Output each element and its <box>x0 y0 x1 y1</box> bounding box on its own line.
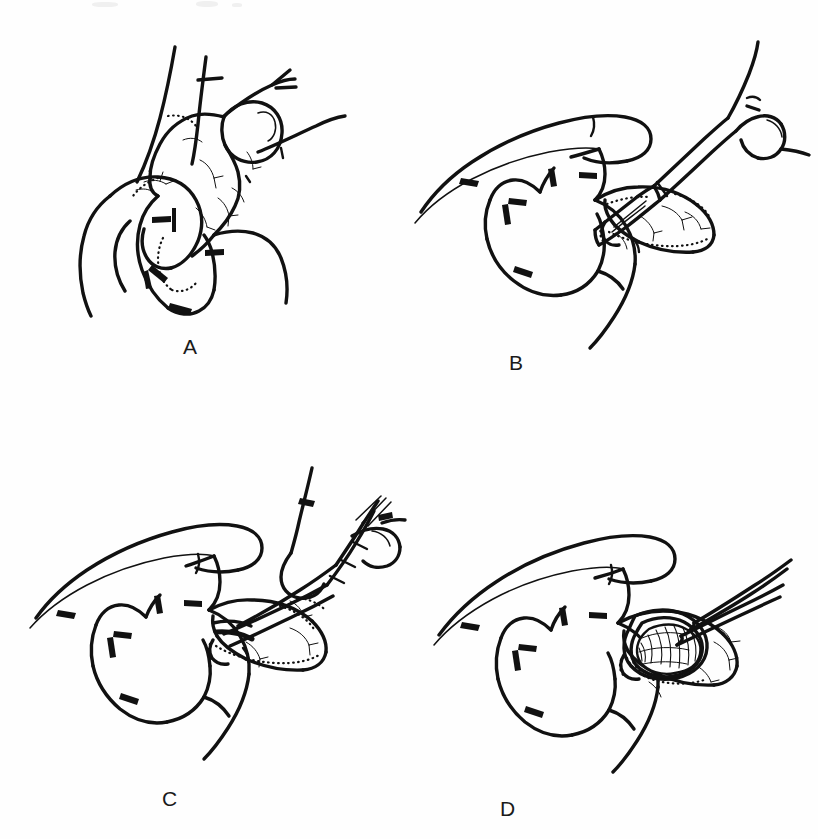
coronary-d5 <box>711 680 719 682</box>
coronary-c3 <box>309 645 310 655</box>
heart-right-border-c <box>204 666 210 697</box>
supporting-finger-left-edge <box>80 196 110 316</box>
heart-left-border-d <box>496 638 501 679</box>
thumb-inner-edge-b <box>598 271 623 289</box>
heart-left-border-b <box>485 200 490 239</box>
heart-right-upper-d <box>608 653 615 679</box>
heart-lower-right-d <box>572 710 609 735</box>
finger-nail-tick-d <box>460 622 480 631</box>
heart-lower-right-c <box>167 697 204 722</box>
figure-sheet: A <box>0 0 818 839</box>
heart-upper-left-b <box>490 180 540 200</box>
heart-lower-right-b <box>561 271 598 295</box>
coronary-branch-a13 <box>207 227 215 230</box>
panel-d-illustration <box>409 420 818 839</box>
appendage-right-b <box>697 205 714 235</box>
panel-a: A <box>0 0 409 419</box>
coronary-b4 <box>640 216 654 233</box>
coronary-c1 <box>290 628 309 645</box>
thumb-outer-edge-c <box>204 674 249 759</box>
ventricle-left-border <box>138 196 168 308</box>
vessel-stub-a2 <box>172 208 176 232</box>
panel-a-illustration <box>0 0 409 419</box>
panel-label-b: B <box>509 352 524 373</box>
coronary-branch-a15 <box>253 167 261 169</box>
vessel-stub-d1 <box>518 644 537 652</box>
finger-lower-shade <box>571 149 599 157</box>
coronary-c2 <box>309 643 318 645</box>
hand2-nail-tick-c <box>298 498 315 507</box>
thumb-inner-edge-c <box>204 697 229 716</box>
right-lower-limb <box>214 231 287 303</box>
scalpel-handle-lower <box>660 131 736 200</box>
coronary-branch-a8 <box>214 178 216 188</box>
finger-nail-tick-c <box>56 610 76 619</box>
hand2-finger-right <box>781 149 809 155</box>
hand2-thumb-lower-c <box>363 547 400 567</box>
heart-apex-c <box>93 666 167 723</box>
heart-upper-left-border <box>150 114 224 177</box>
appendage-lower-right-d <box>714 666 737 685</box>
thumb-inner-edge-d <box>609 710 634 729</box>
heart-left-border-c <box>91 625 96 666</box>
heart-upper-left-c <box>96 605 146 625</box>
coronary-b3 <box>682 220 684 230</box>
panel-d: D <box>409 420 818 839</box>
hand2-finger-pad-c <box>281 553 324 598</box>
panel-c-illustration <box>0 420 409 839</box>
vessel-stub-d5 <box>524 706 544 718</box>
vessel-stub-c5 <box>119 693 139 705</box>
aorta-right-border <box>192 57 206 164</box>
panel-b-illustration <box>409 0 818 419</box>
hand2-thumb-pad <box>758 124 785 159</box>
vessel-stub-b4 <box>579 172 597 179</box>
coronary-branch-a7 <box>214 176 223 178</box>
vessel-stub-b2 <box>502 204 511 225</box>
scissors-upper-blade-top <box>238 565 336 626</box>
vessel-stub-c4 <box>184 600 202 607</box>
appendage-right-c <box>312 621 326 652</box>
coronary-b7 <box>685 212 701 229</box>
scalpel-blade-heel <box>595 230 599 245</box>
vessel-stub-d4 <box>589 612 607 619</box>
heart-right-border-d <box>609 679 615 710</box>
appendage-lobe-inner-crease <box>258 112 276 141</box>
tick-a2 <box>246 176 250 182</box>
index-finger-tip <box>584 158 627 163</box>
pulmonary-branch-stub-2 <box>276 87 296 88</box>
panel-label-d: D <box>500 798 516 819</box>
hand2-knuckle-tick <box>747 106 759 110</box>
heart-upper-right-d <box>618 569 629 623</box>
panel-label-a: A <box>183 336 198 357</box>
appendage-flap-lower <box>142 229 171 269</box>
vessel-stub-c1 <box>113 631 132 639</box>
coronary-b1 <box>662 206 682 220</box>
hand2-thumb-lower <box>741 140 758 158</box>
heart-upper-right-c <box>209 556 220 610</box>
panel-label-c: C <box>162 788 178 809</box>
vessel-stub-b3 <box>548 168 557 187</box>
heart-upper-left-d <box>501 618 551 638</box>
finger-nail-tick-b <box>459 178 479 187</box>
hand2-thumbnail-c <box>372 531 390 546</box>
coronary-branch-a9 <box>218 198 229 216</box>
vessel-stub-d2 <box>512 650 521 671</box>
coronary-b5 <box>654 231 662 233</box>
vessel-stub-b5 <box>513 266 533 278</box>
coronary-d1 <box>714 642 729 660</box>
vessel-stub-c3 <box>154 595 163 614</box>
coronary-d7 <box>731 641 740 642</box>
vessel-stub-a5 <box>205 249 224 256</box>
coronary-c5 <box>260 657 268 659</box>
vessel-stub-a4 <box>143 270 152 289</box>
heart-apex-d <box>498 679 572 736</box>
heart-apex-b <box>487 239 561 295</box>
coronary-b6 <box>653 233 654 241</box>
finger-lower-shade-d <box>595 569 623 578</box>
aorta-left-border <box>137 47 175 182</box>
coronary-b2 <box>682 217 692 220</box>
vessel-stub-a1 <box>152 216 171 223</box>
coronary-branch-a6 <box>200 160 214 178</box>
coronary-branch-a16 <box>183 138 202 142</box>
hand2-finger-edge-c <box>382 520 405 523</box>
